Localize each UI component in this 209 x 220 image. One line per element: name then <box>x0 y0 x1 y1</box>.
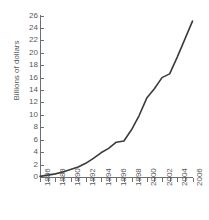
chart-container: Billions of dollars 02468101214161820222… <box>0 0 209 220</box>
data-series-line <box>0 0 209 220</box>
